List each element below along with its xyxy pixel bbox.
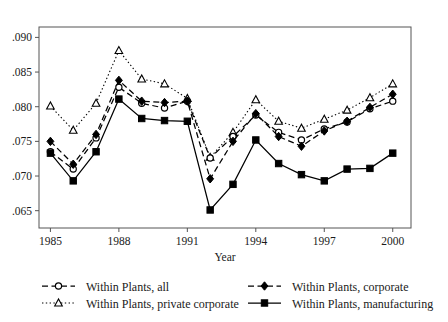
- y-tick-label: .070: [12, 170, 32, 182]
- data-point-filled-square: [93, 149, 99, 155]
- data-point-filled-square: [47, 150, 53, 156]
- x-tick-label: 1997: [313, 235, 336, 247]
- legend-label: Within Plants, corporate: [292, 280, 409, 294]
- legend-label: Within Plants, manufacturing: [292, 297, 433, 311]
- data-point-filled-square: [138, 115, 144, 121]
- x-tick-label: 2000: [381, 235, 404, 247]
- x-tick-label: 1985: [39, 235, 62, 247]
- data-point-filled-square: [275, 160, 281, 166]
- y-tick-label: .075: [12, 135, 32, 147]
- data-point-filled-square: [367, 165, 373, 171]
- y-tick-label: .085: [12, 66, 32, 78]
- data-point-filled-square: [70, 178, 76, 184]
- y-tick-label: .065: [12, 205, 32, 217]
- line-chart: .065.070.075.080.085.0901985198819911994…: [0, 0, 448, 322]
- x-axis-title: Year: [214, 251, 235, 263]
- data-point-filled-square: [253, 137, 259, 143]
- data-point-filled-square: [321, 178, 327, 184]
- x-tick-label: 1988: [107, 235, 130, 247]
- data-point-filled-square: [390, 150, 396, 156]
- y-tick-label: .090: [12, 31, 32, 43]
- data-point-filled-square: [116, 96, 122, 102]
- data-point-filled-square: [298, 171, 304, 177]
- legend-marker-open-circle: [55, 283, 61, 289]
- data-point-open-circle: [207, 155, 213, 161]
- legend-label: Within Plants, all: [86, 280, 170, 294]
- data-point-filled-square: [161, 117, 167, 123]
- data-point-filled-square: [344, 166, 350, 172]
- x-tick-label: 1994: [244, 235, 267, 247]
- data-point-filled-square: [207, 207, 213, 213]
- data-point-filled-square: [184, 118, 190, 124]
- legend-marker-filled-square: [261, 300, 267, 306]
- data-point-filled-square: [230, 181, 236, 187]
- legend-label: Within Plants, private corporate: [86, 297, 239, 311]
- y-tick-label: .080: [12, 101, 32, 113]
- x-tick-label: 1991: [176, 235, 199, 247]
- chart-figure: .065.070.075.080.085.0901985198819911994…: [0, 0, 448, 322]
